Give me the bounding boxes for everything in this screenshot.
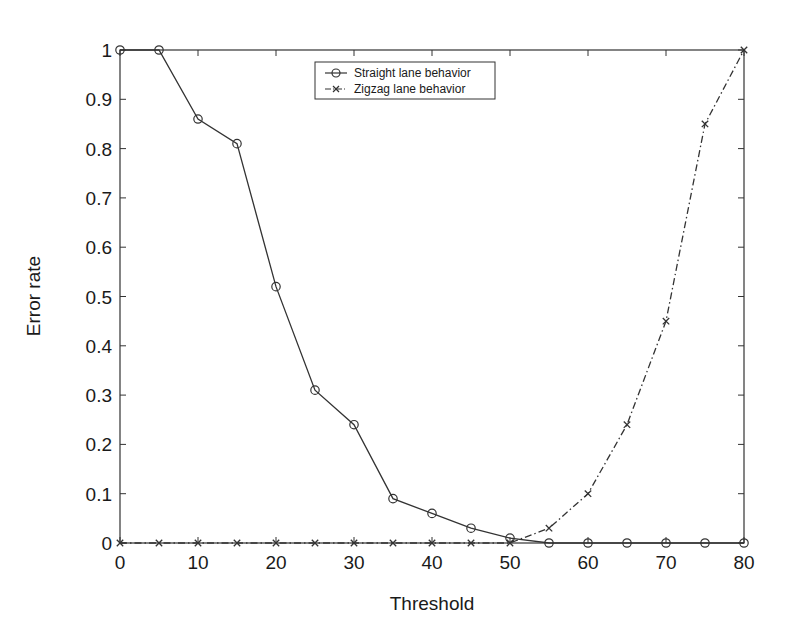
plot-area <box>120 50 744 543</box>
legend-label-straight: Straight lane behavior <box>354 66 471 80</box>
x-tick-label: 80 <box>733 552 754 573</box>
series-layer <box>116 46 748 547</box>
y-tick-label: 0.6 <box>86 237 112 258</box>
y-tick-label: 0 <box>101 533 112 554</box>
data-point <box>624 421 630 427</box>
x-tick-label: 40 <box>421 552 442 573</box>
y-tick-label: 0.7 <box>86 188 112 209</box>
y-tick-label: 0.3 <box>86 385 112 406</box>
x-tick-label: 10 <box>187 552 208 573</box>
x-tick-label: 70 <box>655 552 676 573</box>
y-tick-label: 0.1 <box>86 484 112 505</box>
x-tick-label: 60 <box>577 552 598 573</box>
y-tick-label: 0.4 <box>86 336 113 357</box>
y-tick-label: 0.2 <box>86 434 112 455</box>
series-0 <box>116 46 748 547</box>
data-point <box>585 491 591 497</box>
x-tick-label: 50 <box>499 552 520 573</box>
x-tick-label: 20 <box>265 552 286 573</box>
series-1 <box>117 47 747 546</box>
y-axis-label: Error rate <box>23 256 44 336</box>
y-axis-ticks: 00.10.20.30.40.50.60.70.80.91 <box>86 40 744 554</box>
error-rate-chart: 01020304050607080 00.10.20.30.40.50.60.7… <box>0 0 797 644</box>
y-tick-label: 0.5 <box>86 287 112 308</box>
data-point <box>663 318 669 324</box>
data-point <box>546 525 552 531</box>
y-tick-label: 1 <box>101 40 112 61</box>
x-axis-label: Threshold <box>390 593 475 614</box>
x-tick-label: 0 <box>115 552 126 573</box>
x-axis-ticks: 01020304050607080 <box>115 50 755 573</box>
axes-frame <box>120 50 744 543</box>
legend: Straight lane behavior Zigzag lane behav… <box>315 62 495 99</box>
x-tick-label: 30 <box>343 552 364 573</box>
legend-label-zigzag: Zigzag lane behavior <box>354 82 465 96</box>
y-tick-label: 0.9 <box>86 89 112 110</box>
y-tick-label: 0.8 <box>86 139 112 160</box>
